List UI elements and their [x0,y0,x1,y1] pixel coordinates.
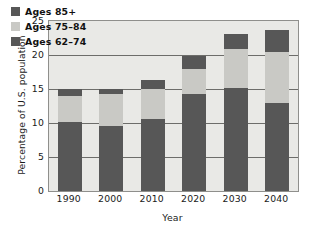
bar-segment [265,30,289,52]
bar-stack [141,80,165,192]
legend-item-label: Ages 62–74 [25,36,86,47]
x-axis-tick-label: 2000 [90,193,130,204]
legend-swatch-icon [11,37,20,46]
y-axis-tick-label: 0 [26,185,44,196]
x-axis-tick-label: 2010 [132,193,172,204]
y-axis-tick-label: 15 [26,83,44,94]
legend: Ages 85+ Ages 75–84 Ages 62–74 [11,5,86,48]
y-axis-tick-label: 20 [26,49,44,60]
x-axis-tick-labels: 199020002010202020302040 [48,193,297,207]
bar-segment [224,49,248,88]
bar-segment [182,94,206,191]
bar-segment [141,119,165,191]
x-axis-tick-label: 2030 [215,193,255,204]
legend-swatch-icon [11,22,20,31]
bar-segment [58,122,82,191]
x-axis-title: Year [48,212,297,223]
bar-segment [265,103,289,191]
x-axis-tick-label: 1990 [49,193,89,204]
legend-item-label: Ages 85+ [25,6,76,17]
bar-segment [141,89,165,119]
bar-segment [99,94,123,125]
bar-segment [265,52,289,103]
legend-item-ages-75-84: Ages 75–84 [11,20,86,33]
legend-item-ages-62-74: Ages 62–74 [11,35,86,48]
bar-stack [265,30,289,191]
bar-segment [182,56,206,68]
legend-swatch-icon [11,7,20,16]
bar-segment [224,88,248,191]
bar-segment [224,34,248,49]
x-axis-tick-label: 2020 [173,193,213,204]
legend-item-label: Ages 75–84 [25,21,86,32]
bar-stack [182,56,206,191]
bar-segment [58,89,82,96]
bar-stack [99,89,123,191]
bar-segment [182,69,206,94]
bar-stack [58,89,82,191]
y-axis-tick-label: 5 [26,151,44,162]
x-axis-tick-label: 2040 [256,193,296,204]
bar-segment [141,80,165,90]
stacked-bar-chart: Percentage of U.S. population 2520151050… [0,0,311,240]
bar-segment [58,96,82,122]
legend-item-ages-85-plus: Ages 85+ [11,5,86,18]
y-axis-tick-label: 10 [26,117,44,128]
bar-stack [224,34,248,191]
bar-segment [99,126,123,191]
